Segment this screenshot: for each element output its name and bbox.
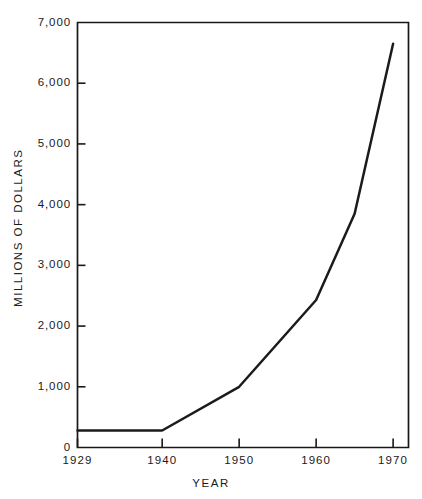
y-axis-tick-labels: 01,0002,0003,0004,0005,0006,0007,000 — [0, 0, 71, 499]
y-tick-label: 1,000 — [38, 381, 71, 393]
y-tick-label: 6,000 — [38, 77, 71, 89]
chart-figure: 01,0002,0003,0004,0005,0006,0007,000 192… — [0, 0, 422, 499]
x-tick-label: 1929 — [63, 455, 93, 467]
x-axis-tick-labels: 19291940195019601970 — [0, 455, 422, 475]
x-axis-title: YEAR — [0, 478, 422, 490]
y-tick-label: 4,000 — [38, 199, 71, 211]
y-tick-label: 0 — [64, 442, 71, 454]
y-tick-label: 2,000 — [38, 320, 71, 332]
y-axis-title: MILLIONS OF DOLLARS — [13, 133, 25, 323]
y-tick-label: 5,000 — [38, 138, 71, 150]
y-tick-label: 3,000 — [38, 259, 71, 271]
y-tick-label: 7,000 — [38, 17, 71, 29]
data-series-line — [78, 44, 394, 431]
axis-ticks — [78, 83, 394, 447]
x-tick-label: 1950 — [224, 455, 254, 467]
x-tick-label: 1970 — [378, 455, 408, 467]
x-tick-label: 1940 — [147, 455, 177, 467]
x-tick-label: 1960 — [301, 455, 331, 467]
